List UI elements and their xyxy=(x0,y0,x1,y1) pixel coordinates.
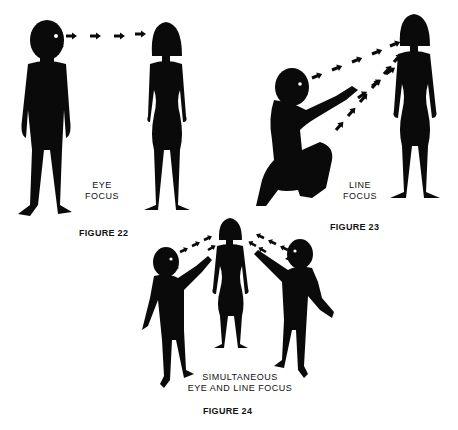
man-silhouette-fig22 xyxy=(18,20,72,216)
caption-line: SIMULTANEOUS xyxy=(180,372,300,383)
caption-line: EYE xyxy=(82,180,122,191)
illustration-page: EYE FOCUS FIGURE 22 LINE FOCUS FIGURE 23… xyxy=(0,0,458,430)
caption-simultaneous-focus: SIMULTANEOUS EYE AND LINE FOCUS xyxy=(180,372,300,394)
eye-highlight xyxy=(54,34,58,38)
right-man-silhouette-fig24 xyxy=(254,239,334,378)
woman-silhouette-fig22 xyxy=(144,22,190,210)
caption-line-focus: LINE FOCUS xyxy=(340,180,380,202)
figure-label-24: FIGURE 24 xyxy=(203,406,252,416)
caption-eye-focus: EYE FOCUS xyxy=(82,180,122,202)
caption-line: LINE xyxy=(340,180,380,191)
right-focus-arrows xyxy=(247,232,289,255)
caption-line: FOCUS xyxy=(340,191,380,202)
eye-highlight xyxy=(293,249,296,252)
silhouette-illustrations xyxy=(0,0,458,430)
figure-label-22: FIGURE 22 xyxy=(79,228,128,238)
caption-line: EYE AND LINE FOCUS xyxy=(180,383,300,394)
center-woman-silhouette-fig24 xyxy=(212,218,248,348)
eye-focus-arrows xyxy=(66,30,146,39)
eye-highlight xyxy=(298,82,302,86)
left-focus-arrows xyxy=(179,234,217,255)
figure-label-23: FIGURE 23 xyxy=(330,222,379,232)
line-focus-arrows xyxy=(311,39,409,133)
eye-highlight xyxy=(169,257,172,260)
caption-line: FOCUS xyxy=(82,191,122,202)
left-man-silhouette-fig24 xyxy=(142,247,212,388)
